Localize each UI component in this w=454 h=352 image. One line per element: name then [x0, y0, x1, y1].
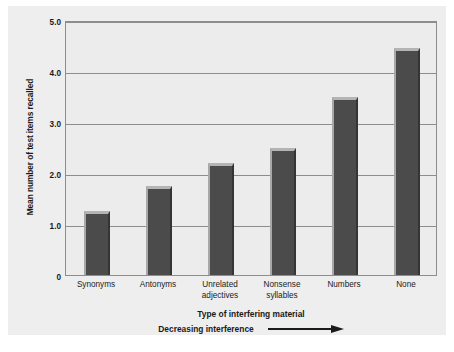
y-axis-tick-label: 5.0	[50, 18, 61, 27]
y-axis-tick-label: 4.0	[50, 69, 61, 78]
bar	[84, 211, 110, 275]
gridline	[66, 124, 436, 125]
y-axis-title: Mean number of test items recalled	[25, 47, 35, 247]
chart-figure: Mean number of test items recalled 01.02…	[8, 6, 446, 335]
x-axis-tick-label: None	[364, 280, 448, 291]
gridline	[66, 175, 436, 176]
plot-area: 01.02.03.04.05.0	[65, 21, 437, 276]
gridline	[66, 73, 436, 74]
bar	[146, 186, 172, 275]
y-axis-tick-label: 1.0	[50, 222, 61, 231]
y-axis-tick-label: 2.0	[50, 171, 61, 180]
x-axis-title: Type of interfering material	[65, 309, 437, 319]
bar	[394, 48, 420, 275]
bar	[332, 97, 358, 276]
gridline	[66, 22, 436, 23]
y-axis-tick-label: 3.0	[50, 120, 61, 129]
gridline	[66, 226, 436, 227]
decreasing-interference-annotation: Decreasing interference	[65, 324, 437, 334]
bar	[270, 148, 296, 276]
bar	[208, 163, 234, 275]
annotation-label: Decreasing interference	[158, 324, 253, 334]
right-arrow-icon	[268, 325, 344, 333]
